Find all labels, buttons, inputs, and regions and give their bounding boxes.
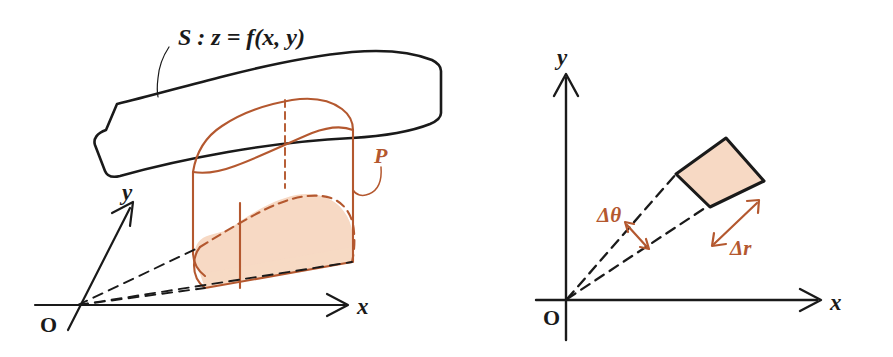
right-y-axis-label: y (554, 45, 568, 70)
right-panel: Δθ Δr y x O (536, 45, 842, 340)
polar-ray-upper (567, 174, 676, 299)
polar-area-element-patch (676, 138, 764, 207)
surface-label-leader (157, 47, 169, 97)
delta-r-label: Δr (729, 236, 752, 260)
surface-label: S : z = f(x, y) (178, 24, 305, 50)
left-origin-label: O (40, 312, 57, 337)
left-y-axis-line (68, 208, 130, 330)
diagram-canvas: S : z = f(x, y) P x y O (0, 0, 893, 357)
polar-ray-lower (567, 206, 708, 299)
left-panel: S : z = f(x, y) P x y O (35, 24, 441, 337)
figure-root: S : z = f(x, y) P x y O (0, 0, 893, 357)
left-x-axis-label: x (356, 294, 369, 319)
right-x-axis-label: x (829, 290, 842, 315)
left-y-axis-label: y (119, 180, 133, 205)
delta-theta-arrow-line (627, 225, 647, 247)
solid-label-leader (353, 167, 381, 195)
surface-band (94, 51, 441, 177)
right-origin-label: O (543, 305, 560, 330)
delta-theta-label: Δθ (596, 203, 621, 227)
solid-label: P (373, 143, 388, 168)
